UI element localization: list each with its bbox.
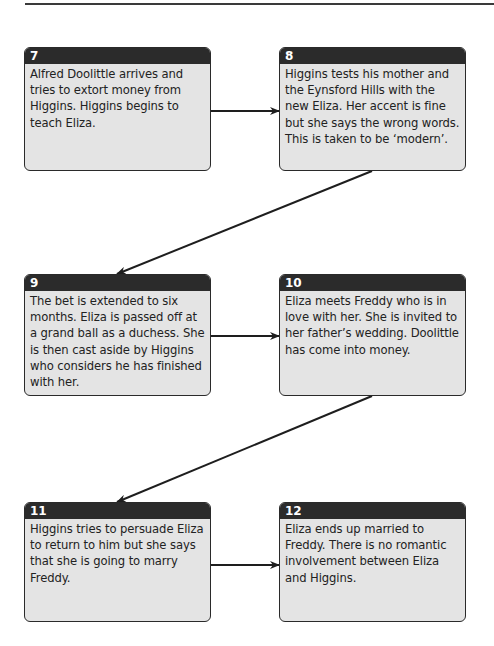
step-box-10: 10 Eliza meets Freddy who is in love wit… (279, 274, 466, 396)
step-number: 7 (25, 48, 210, 64)
step-box-12: 12 Eliza ends up married to Freddy. Ther… (279, 502, 466, 622)
step-number: 10 (280, 275, 465, 291)
step-text: The bet is extended to six months. Eliza… (25, 291, 210, 390)
step-box-8: 8 Higgins tests his mother and the Eynsf… (279, 47, 466, 171)
step-text: Alfred Doolittle arrives and tries to ex… (25, 64, 210, 131)
step-text: Higgins tries to persuade Eliza to retur… (25, 519, 210, 586)
step-box-9: 9 The bet is extended to six months. Eli… (24, 274, 211, 396)
step-box-7: 7 Alfred Doolittle arrives and tries to … (24, 47, 211, 171)
step-number: 11 (25, 503, 210, 519)
step-box-11: 11 Higgins tries to persuade Eliza to re… (24, 502, 211, 622)
arrow-10-to-11 (117, 396, 372, 502)
arrow-8-to-9 (117, 171, 372, 274)
step-number: 9 (25, 275, 210, 291)
step-number: 12 (280, 503, 465, 519)
step-text: Higgins tests his mother and the Eynsfor… (280, 64, 465, 147)
step-number: 8 (280, 48, 465, 64)
step-text: Eliza ends up married to Freddy. There i… (280, 519, 465, 586)
step-text: Eliza meets Freddy who is in love with h… (280, 291, 465, 358)
